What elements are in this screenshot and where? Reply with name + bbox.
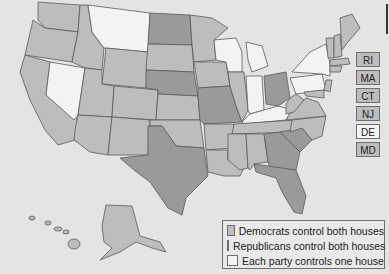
state-new-jersey: [324, 80, 332, 92]
legend-swatch-split: [227, 255, 238, 266]
legend-item-dem: Democrats control both houses: [227, 223, 384, 238]
state-wyoming: [102, 48, 148, 88]
legend-swatch-dem: [227, 225, 235, 236]
state-michigan: [246, 42, 268, 72]
state-hawaii: [29, 216, 80, 249]
state-alaska: [100, 205, 166, 260]
legend: Democrats control both houses Republican…: [222, 220, 385, 269]
state-label-ri: RI: [356, 52, 380, 67]
state-arizona: [74, 115, 112, 155]
state-iowa: [194, 62, 230, 88]
state-north-dakota: [148, 13, 192, 45]
legend-label-rep: Republicans control both houses: [233, 240, 385, 252]
state-label-nj: NJ: [356, 106, 380, 121]
state-connecticut: [330, 66, 342, 72]
state-label-md: MD: [356, 142, 380, 157]
state-florida: [254, 164, 306, 214]
legend-swatch-rep: [227, 240, 229, 251]
state-indiana: [246, 76, 264, 114]
page-edge-divider: [386, 4, 388, 34]
state-maine: [340, 14, 360, 50]
state-label-ma: MA: [356, 70, 380, 85]
state-label-de: DE: [356, 124, 380, 139]
state-new-york: [292, 44, 330, 76]
state-colorado: [112, 86, 158, 120]
legend-item-rep: Republicans control both houses: [227, 238, 384, 253]
state-south-dakota: [146, 44, 194, 72]
legend-label-split: Each party controls one house: [242, 255, 384, 267]
legend-item-split: Each party controls one house: [227, 253, 384, 268]
state-massachusetts: [330, 58, 350, 66]
state-new-hampshire: [334, 34, 342, 58]
state-label-ct: CT: [356, 88, 380, 103]
legend-label-dem: Democrats control both houses: [239, 225, 384, 237]
state-new-mexico: [108, 117, 150, 155]
state-ohio: [264, 72, 290, 106]
state-kansas: [156, 94, 200, 120]
